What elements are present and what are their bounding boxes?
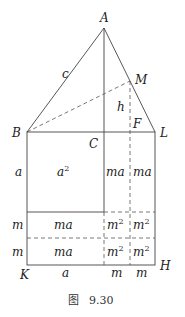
caption-prefix: 图 — [68, 294, 79, 307]
region-ma-2: ma — [133, 165, 152, 179]
point-K: K — [19, 268, 30, 282]
label-left-a: a — [15, 165, 22, 179]
label-left-m1: m — [12, 218, 23, 232]
point-C: C — [89, 137, 98, 151]
geometry-figure: A B C F L M K H c h a m m a m m a2 ma ma… — [0, 0, 185, 317]
point-B: B — [11, 126, 21, 140]
region-m2-mid-1: m2 — [107, 217, 123, 232]
label-h: h — [117, 100, 125, 114]
label-bottom-m1: m — [111, 266, 122, 280]
point-H: H — [159, 259, 171, 273]
point-M: M — [134, 73, 148, 87]
label-left-m2: m — [12, 245, 23, 259]
region-m2-bot-1: m2 — [107, 244, 123, 259]
label-bottom-a: a — [62, 266, 69, 280]
region-m2-mid-2: m2 — [133, 217, 149, 232]
point-F: F — [132, 117, 142, 131]
region-ma-bot: ma — [54, 245, 73, 259]
side-AL — [104, 28, 155, 132]
point-A: A — [99, 11, 109, 25]
region-m2-bot-2: m2 — [133, 244, 149, 259]
caption-number: 9.30 — [89, 294, 114, 307]
label-bottom-m2: m — [136, 266, 147, 280]
segment-BM — [27, 81, 130, 132]
label-c: c — [62, 67, 69, 81]
region-ma-mid: ma — [54, 218, 73, 232]
region-a-squared: a2 — [57, 164, 69, 179]
point-L: L — [159, 126, 168, 140]
region-ma-1: ma — [106, 165, 125, 179]
